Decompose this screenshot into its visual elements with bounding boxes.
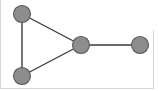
graph-edge (22, 14, 81, 45)
graph-figure (0, 0, 158, 91)
graph-node (73, 37, 90, 54)
graph-edge (22, 45, 81, 76)
graph-node (14, 6, 31, 23)
graph-canvas (0, 0, 158, 91)
graph-node (132, 37, 149, 54)
graph-node (14, 68, 31, 85)
